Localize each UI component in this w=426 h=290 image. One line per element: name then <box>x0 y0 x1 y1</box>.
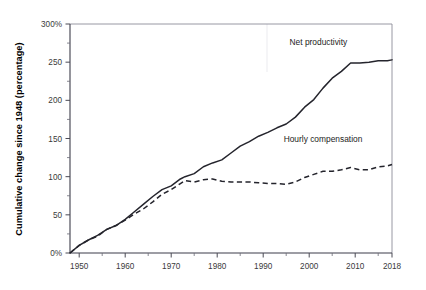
x-tick-label-1960: 1960 <box>116 262 135 271</box>
x-tick-label-1990: 1990 <box>254 262 273 271</box>
x-tick-label-1950: 1950 <box>70 262 89 271</box>
y-tick-label-300: 300% <box>41 20 62 29</box>
x-tick-label-1980: 1980 <box>208 262 227 271</box>
y-tick-label-150: 150 <box>48 135 62 144</box>
x-axis-major-ticks <box>79 253 392 258</box>
x-tick-label-1970: 1970 <box>162 262 181 271</box>
y-tick-label-200: 200 <box>48 96 62 105</box>
y-tick-label-50: 50 <box>53 211 63 220</box>
productivity-pay-chart: 0%50100150200250300% 1950196019701980199… <box>0 0 426 290</box>
chart-canvas: 0%50100150200250300% 1950196019701980199… <box>0 0 426 290</box>
y-tick-label-250: 250 <box>48 58 62 67</box>
y-axis-tick-labels: 0%50100150200250300% <box>41 20 62 258</box>
x-axis-tick-labels: 19501960197019801990200020102018 <box>70 262 401 271</box>
x-tick-label-2000: 2000 <box>300 262 319 271</box>
annotation-net-productivity: Net productivity <box>290 37 349 47</box>
y-axis-major-ticks <box>66 24 71 253</box>
y-tick-label-0: 0% <box>50 249 62 258</box>
y-axis-title: Cumulative change since 1948 (percentage… <box>14 42 24 235</box>
series-line-hourly-compensation <box>70 164 392 253</box>
y-tick-label-100: 100 <box>48 173 62 182</box>
annotation-hourly-compensation: Hourly compensation <box>284 134 363 144</box>
x-tick-label-2010: 2010 <box>346 262 365 271</box>
x-tick-label-2018: 2018 <box>383 262 402 271</box>
series-annotations: Net productivityHourly compensation <box>284 37 363 143</box>
